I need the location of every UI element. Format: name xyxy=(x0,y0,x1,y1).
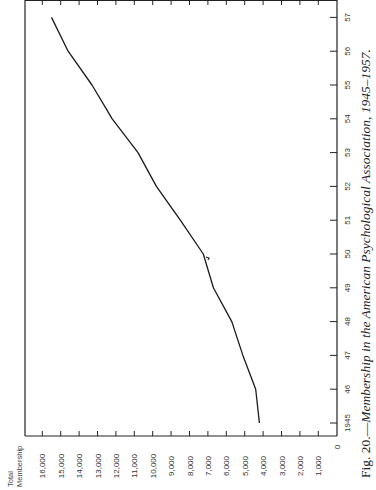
membership-axis-ticks: 01,0002,0003,0004,0005,0006,0007,0008,00… xyxy=(38,431,341,478)
stray-mark xyxy=(206,257,209,260)
year-tick-label: 50 xyxy=(343,249,352,258)
year-tick-label: 46 xyxy=(343,384,352,393)
plot-frame xyxy=(25,0,337,436)
year-tick-label: 49 xyxy=(343,283,352,292)
year-tick-label: 52 xyxy=(343,181,352,190)
membership-tick-label: 1,000 xyxy=(314,455,323,476)
caption-title: Membership in the American Psychological… xyxy=(358,49,373,424)
membership-chart: 01,0002,0003,0004,0005,0006,0007,0008,00… xyxy=(0,0,376,490)
membership-tick-label: 16,000 xyxy=(38,453,47,478)
year-tick-label: 1945 xyxy=(343,414,352,432)
year-axis-ticks: 1945464748495051525354555657 xyxy=(330,12,352,431)
membership-tick-label: 6,000 xyxy=(222,455,231,476)
membership-tick-label: 10,000 xyxy=(149,453,158,478)
axis-title: Total Membership xyxy=(6,446,24,487)
svg-text:Fig. 20.—Membership in the Ame: Fig. 20.—Membership in the American Psyc… xyxy=(358,49,373,478)
year-tick-label: 57 xyxy=(343,12,352,21)
membership-tick-label: 12,000 xyxy=(112,453,121,478)
year-tick-label: 55 xyxy=(343,80,352,89)
membership-tick-label: 5,000 xyxy=(241,455,250,476)
membership-tick-label: 9,000 xyxy=(167,455,176,476)
membership-line xyxy=(52,17,260,423)
membership-tick-label: 4,000 xyxy=(259,455,268,476)
membership-tick-label: 8,000 xyxy=(186,455,195,476)
membership-tick-label: 13,000 xyxy=(94,453,103,478)
figure-caption: Fig. 20.—Membership in the American Psyc… xyxy=(358,49,373,478)
year-tick-label: 51 xyxy=(343,215,352,224)
membership-tick-label: 11,000 xyxy=(130,454,139,478)
membership-tick-label: 3,000 xyxy=(278,455,287,476)
year-tick-label: 54 xyxy=(343,114,352,123)
caption-prefix: Fig. 20.— xyxy=(358,422,373,478)
year-tick-label: 53 xyxy=(343,148,352,157)
membership-tick-label: 7,000 xyxy=(204,455,213,476)
membership-tick-label: 14,000 xyxy=(75,453,84,478)
membership-tick-label: 0 xyxy=(333,444,342,449)
membership-tick-label: 2,000 xyxy=(296,455,305,476)
year-tick-label: 56 xyxy=(343,46,352,55)
year-tick-label: 48 xyxy=(343,317,352,326)
svg-text:Total: Total xyxy=(6,471,15,487)
membership-tick-label: 15,000 xyxy=(57,453,66,478)
year-tick-label: 47 xyxy=(343,350,352,359)
svg-text:Membership: Membership xyxy=(15,446,24,487)
